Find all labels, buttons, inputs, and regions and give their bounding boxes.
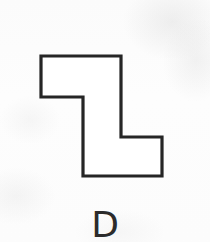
figure-panel: D — [0, 0, 210, 242]
stepped-z-polygon-outline — [41, 56, 162, 176]
figure-label: D — [0, 207, 210, 242]
